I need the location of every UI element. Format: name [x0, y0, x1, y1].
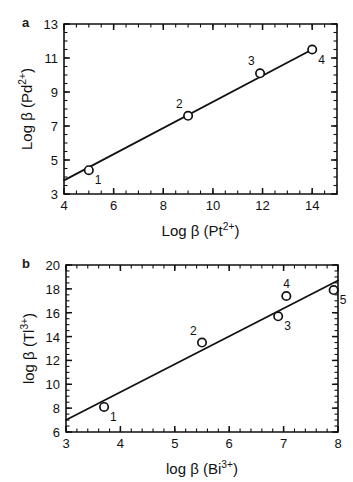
plot-b-xtick-label: 7	[272, 437, 296, 450]
data-point-marker	[308, 45, 316, 53]
data-point-marker	[256, 69, 264, 77]
plot-a-y-axis-title: Log β (Pd2+)	[18, 24, 34, 194]
plot-b-y-axis-title-sup: 3+	[19, 318, 30, 330]
plot-a-xtick-label: 8	[151, 199, 175, 212]
plot-a-x-axis-title-main: Log β (Pt	[162, 222, 223, 239]
data-point-marker	[198, 338, 206, 346]
data-point-marker	[329, 286, 337, 294]
data-point-marker	[85, 166, 93, 174]
data-point-label: 2	[190, 325, 197, 337]
plot-b-xtick-label: 5	[163, 437, 187, 450]
plot-b-y-axis-title: log β (Tl3+)	[20, 265, 36, 432]
chart-panel-b: b 34567868101214161820 12345 log β (Bi3+…	[0, 240, 353, 482]
plot-b-y-axis-title-tail: )	[20, 313, 37, 318]
plot-a-xtick-label: 6	[102, 199, 126, 212]
data-point-marker	[184, 112, 192, 120]
plot-a-ytick-label: 11	[30, 52, 58, 65]
plot-a-y-axis-title-tail: )	[18, 68, 35, 73]
plot-b-ytick-label: 20	[32, 259, 60, 272]
plot-a-x-axis-title-tail: )	[234, 222, 239, 239]
plot-b-xtick-label: 8	[326, 437, 350, 450]
data-point-label: 3	[284, 320, 291, 332]
plot-b-x-axis-title-sup: 3+	[221, 459, 233, 470]
data-point-marker	[100, 403, 108, 411]
data-point-label: 4	[318, 54, 325, 66]
plot-b-x-axis-title-main: log β (Bi	[166, 460, 221, 477]
plot-b-x-axis-title-tail: )	[233, 460, 238, 477]
plot-b-ytick-label: 18	[32, 283, 60, 296]
data-point-label: 4	[283, 278, 290, 290]
plot-b-x-axis-title: log β (Bi3+)	[66, 460, 338, 476]
plot-a-xtick-label: 10	[201, 199, 225, 212]
data-point-label: 1	[110, 411, 117, 423]
plot-b-xtick-label: 6	[217, 437, 241, 450]
figure-container: a 46810121435791113 1234 Log β (Pt2+) Lo…	[0, 0, 353, 482]
plot-a-ytick-label: 3	[30, 188, 58, 201]
data-point-marker	[274, 312, 282, 320]
chart-panel-a: a 46810121435791113 1234 Log β (Pt2+) Lo…	[0, 0, 353, 240]
plot-a-y-axis-title-main: Log β (Pd	[18, 85, 35, 150]
plot-a-xtick-label: 14	[300, 199, 324, 212]
plot-b-fit-line	[66, 281, 338, 421]
data-point-marker	[282, 292, 290, 300]
plot-a-x-axis-title: Log β (Pt2+)	[64, 222, 337, 238]
data-point-label: 5	[340, 294, 347, 306]
data-point-label: 2	[176, 98, 183, 110]
plot-b-y-axis-title-main: log β (Tl	[20, 330, 37, 384]
plot-a-ytick-label: 13	[30, 18, 58, 31]
plot-a-x-axis-title-sup: 2+	[223, 221, 235, 232]
plot-a-y-axis-title-sup: 2+	[17, 73, 28, 85]
plot-b-ytick-label: 6	[32, 426, 60, 439]
plot-a-ytick-label: 5	[30, 154, 58, 167]
data-point-label: 1	[95, 174, 102, 186]
plot-b-ytick-label: 8	[32, 402, 60, 415]
plot-b-xtick-label: 4	[108, 437, 132, 450]
data-point-label: 3	[248, 55, 255, 67]
plot-a-xtick-label: 12	[251, 199, 275, 212]
